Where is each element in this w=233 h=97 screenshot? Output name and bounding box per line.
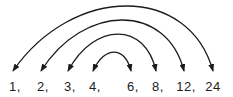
number-label-3: 3,: [64, 79, 76, 94]
number-label-1: 1,: [9, 79, 21, 94]
number-label-4: 4,: [89, 79, 101, 94]
number-label-24: 24: [205, 79, 220, 94]
number-label-8: 8,: [152, 79, 164, 94]
factor-pairs-figure: 1,2,3,4,6,8,12,24: [0, 0, 233, 97]
arc-1-24: [13, 6, 213, 71]
arc-2-12: [41, 20, 184, 71]
number-label-6: 6,: [127, 79, 139, 94]
factor-pairs-diagram: 1,2,3,4,6,8,12,24: [0, 0, 233, 97]
number-label-12: 12,: [176, 79, 196, 94]
number-label-2: 2,: [37, 79, 49, 94]
arc-4-6: [93, 52, 131, 71]
